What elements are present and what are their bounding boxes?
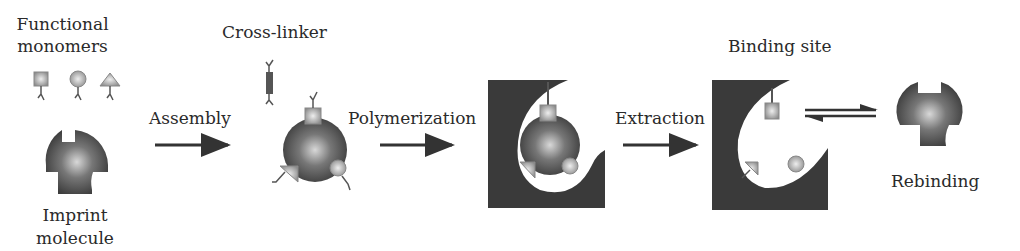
functional-monomers-label-2: monomers: [0, 36, 125, 56]
binding-site-label: Binding site: [728, 36, 832, 56]
cross-linker-icon: [266, 60, 273, 105]
polymer-with-template-icon: [488, 80, 605, 208]
rebinding-molecule-icon: [896, 82, 962, 146]
assembly-label: Assembly: [149, 108, 231, 128]
imprint-label: Imprint: [0, 205, 150, 225]
rebinding-label: Rebinding: [891, 171, 979, 191]
cross-linker-label: Cross-linker: [222, 22, 327, 42]
polymerization-label: Polymerization: [348, 108, 476, 128]
binding-site-polymer-icon: [712, 80, 828, 210]
imprint-label-2: molecule: [0, 228, 150, 248]
functional-monomers-icons: [34, 71, 120, 100]
extraction-label: Extraction: [615, 108, 705, 128]
equilibrium-arrows: [805, 104, 878, 122]
imprint-molecule-icon: [46, 130, 108, 194]
functional-monomers-label: Functional: [0, 14, 125, 34]
assembled-complex-icon: [272, 92, 350, 190]
